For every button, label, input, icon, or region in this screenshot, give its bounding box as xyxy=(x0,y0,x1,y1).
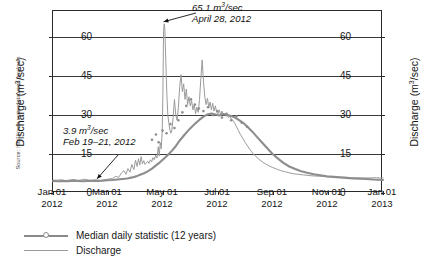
legend-item[interactable]: Median daily statistic (12 years) xyxy=(24,228,216,243)
leader-line xyxy=(97,155,118,179)
legend-key-line xyxy=(24,245,68,257)
legend-line-swatch xyxy=(24,250,68,251)
legend-label: Median daily statistic (12 years) xyxy=(76,230,216,241)
leader-line xyxy=(164,13,196,22)
legend-key-line-marker xyxy=(24,230,68,242)
chart-figure: Source: http://nwis.waterdata.usgs.gov/n… xyxy=(0,0,434,263)
legend-circle-marker-icon xyxy=(43,232,49,238)
chart-legend: Median daily statistic (12 years)Dischar… xyxy=(24,228,216,258)
legend-item[interactable]: Discharge xyxy=(24,243,216,258)
annotation-leader-lines xyxy=(0,0,434,263)
legend-label: Discharge xyxy=(76,245,121,256)
